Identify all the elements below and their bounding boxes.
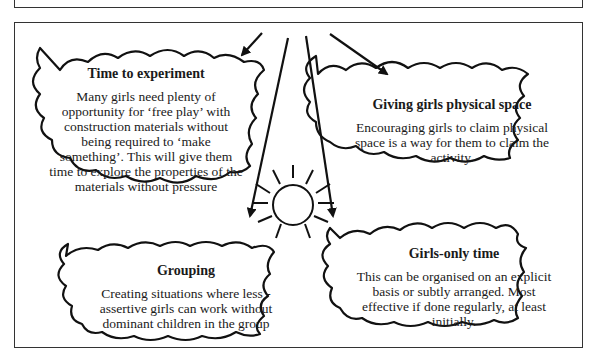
cloud-text-grouping: Grouping Creating situations where less … — [86, 263, 286, 331]
sun-icon — [252, 165, 334, 238]
cloud-title: Time to experiment — [48, 66, 244, 81]
cloud-title: Grouping — [86, 263, 286, 278]
cloud-body: Encouraging girls to claim physical spac… — [352, 120, 552, 165]
arrow-to-physical-space — [330, 34, 387, 74]
cloud-text-giving-girls-physical-space: Giving girls physical space Encouraging … — [352, 97, 552, 165]
cloud-body: Creating situations where less - asserti… — [86, 286, 286, 331]
cloud-body: Many girls need plenty of opportunity fo… — [48, 89, 244, 194]
cloud-title: Girls-only time — [354, 246, 554, 261]
cloud-text-time-to-experiment: Time to experiment Many girls need plent… — [48, 66, 244, 194]
arrow-to-time-to-experiment — [242, 33, 262, 55]
cloud-title: Giving girls physical space — [352, 97, 552, 112]
cloud-text-girls-only-time: Girls-only time This can be organised on… — [354, 246, 554, 329]
cloud-body: This can be organised on an explicit bas… — [354, 269, 554, 329]
arrow-to-girls-only-time — [306, 36, 333, 216]
